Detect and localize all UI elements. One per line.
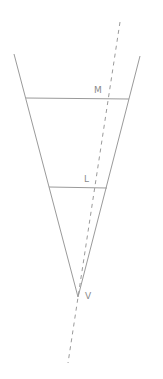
chord-L (49, 187, 107, 188)
label-V: V (85, 291, 92, 301)
cone-diagram: M L V (0, 0, 163, 379)
chord-M (26, 98, 129, 99)
label-M: M (94, 85, 102, 95)
label-L: L (84, 174, 89, 184)
dashed-axis (68, 22, 120, 363)
cone-left-side (14, 54, 78, 297)
